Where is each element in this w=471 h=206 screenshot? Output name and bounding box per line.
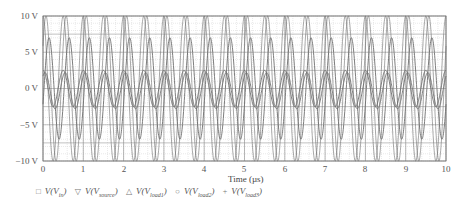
x-tick: 1 <box>73 164 93 174</box>
legend-subscript: source <box>99 192 115 198</box>
legend-suffix: ) <box>212 186 215 196</box>
legend-suffix: ) <box>115 186 118 196</box>
plus-marker-icon: + <box>223 187 228 196</box>
x-tick: 8 <box>355 164 375 174</box>
legend-item-vin: □V(Vin) <box>36 186 67 198</box>
y-tick: 10 V <box>0 11 38 21</box>
legend-item-vload1: △V(Vload1) <box>126 186 167 198</box>
x-tick: 10 <box>436 164 456 174</box>
legend-subscript: load2 <box>198 192 212 198</box>
x-tick: 0 <box>33 164 53 174</box>
y-tick: 5 V <box>0 47 38 57</box>
legend-label: V(V <box>184 186 198 196</box>
x-tick: 7 <box>315 164 335 174</box>
triangle-up-marker-icon: △ <box>126 187 132 196</box>
legend-subscript: load1 <box>150 192 164 198</box>
grid <box>43 16 446 161</box>
x-tick: 9 <box>396 164 416 174</box>
legend-item-vload3: +V(Vload3) <box>223 186 262 198</box>
legend-item-vsource: ▽V(Vsource) <box>75 186 118 198</box>
legend-label: V(V <box>85 186 99 196</box>
circle-marker-icon: ○ <box>175 187 180 196</box>
legend-label: V(V <box>45 186 59 196</box>
legend-label: V(V <box>136 186 150 196</box>
y-tick: −5 V <box>0 120 38 130</box>
y-tick: 0 V <box>0 83 38 93</box>
x-tick: 4 <box>194 164 214 174</box>
legend-suffix: ) <box>64 186 67 196</box>
x-axis-label: Time (µs) <box>228 174 264 184</box>
x-tick: 3 <box>154 164 174 174</box>
triangle-down-marker-icon: ▽ <box>75 187 81 196</box>
legend-item-vload2: ○V(Vload2) <box>175 186 215 198</box>
legend-subscript: load3 <box>245 192 259 198</box>
square-marker-icon: □ <box>36 187 41 196</box>
legend-suffix: ) <box>164 186 167 196</box>
x-tick: 2 <box>114 164 134 174</box>
legend-suffix: ) <box>259 186 262 196</box>
legend-label: V(V <box>231 186 245 196</box>
x-tick: 6 <box>275 164 295 174</box>
legend: □V(Vin) ▽V(Vsource) △V(Vload1) ○V(Vload2… <box>36 186 268 198</box>
x-tick: 5 <box>234 164 254 174</box>
